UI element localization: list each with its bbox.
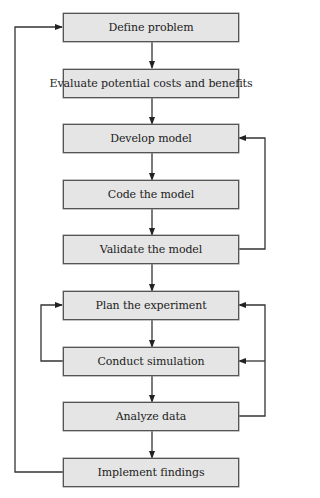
step-develop-model: Develop model — [63, 124, 239, 153]
step-implement-findings: Implement findings — [63, 458, 239, 487]
step-validate-model: Validate the model — [63, 235, 239, 264]
step-analyze-data: Analyze data — [63, 402, 239, 431]
step-conduct-simulation: Conduct simulation — [63, 347, 239, 376]
step-code-model: Code the model — [63, 180, 239, 209]
step-plan-experiment: Plan the experiment — [63, 291, 239, 320]
step-define-problem: Define problem — [63, 13, 239, 42]
step-evaluate-costs-benefits: Evaluate potential costs and benefits — [63, 69, 239, 98]
